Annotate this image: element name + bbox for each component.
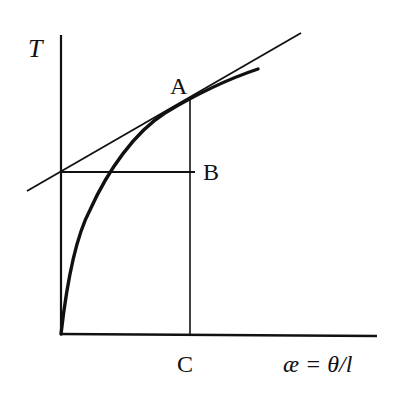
point-c-label: C (177, 352, 193, 376)
curve (61, 69, 258, 334)
diagram-canvas: T A B C æ = θ/l (0, 0, 402, 396)
point-b-label: B (203, 160, 219, 184)
diagram-svg (0, 0, 402, 396)
x-axis (60, 334, 377, 336)
x-axis-label: æ = θ/l (283, 352, 352, 376)
point-a-label: A (170, 74, 187, 98)
y-axis-label: T (28, 36, 42, 62)
